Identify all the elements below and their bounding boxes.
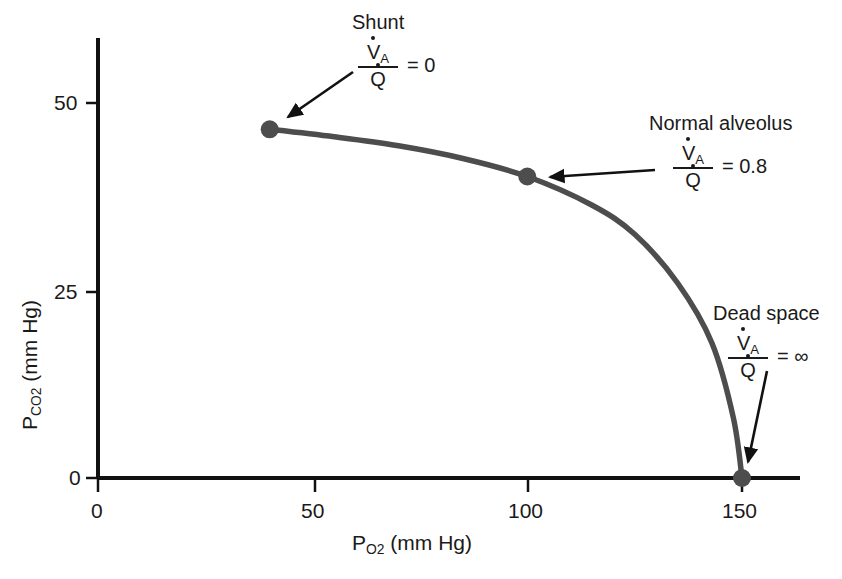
data-point-shunt[interactable] [261, 120, 279, 138]
annotation-dead-space-title: Dead space [713, 303, 820, 323]
shunt-denominator: Q [368, 69, 388, 89]
annotation-normal-alveolus-title: Normal alveolus [649, 113, 792, 133]
x-tick-label-100: 100 [508, 500, 543, 521]
dot-icon [741, 327, 745, 331]
annotation-dead-space-ratio: VA Q = ∞ [728, 333, 809, 381]
x-tick-label-150: 150 [722, 500, 757, 521]
normal-denominator-letter: Q [685, 169, 701, 191]
shunt-fraction: VA Q [358, 42, 398, 90]
x-axis-title-main: P [352, 531, 366, 554]
x-axis-title-unit: (mm Hg) [385, 531, 473, 554]
dot-icon [686, 137, 690, 141]
normal-alveolus-arrow-icon [550, 170, 655, 177]
data-point-normal-alveolus[interactable] [518, 168, 536, 186]
deadspace-numerator-letter: V [737, 332, 750, 354]
deadspace-numerator: VA [735, 333, 761, 356]
normal-denominator: Q [683, 170, 703, 190]
x-tick-label-0: 0 [91, 500, 103, 521]
deadspace-denominator-letter: Q [740, 359, 756, 381]
x-tick-label-50: 50 [301, 500, 324, 521]
y-axis-title-sub2: 2 [28, 387, 44, 395]
shunt-arrow-icon [288, 72, 353, 117]
shunt-numerator: VA [365, 42, 391, 65]
deadspace-denominator: Q [738, 360, 758, 380]
normal-equals: = 0.8 [720, 155, 767, 178]
shunt-numerator-letter: V [367, 41, 380, 63]
y-axis-title-unit: (mm Hg) [18, 300, 41, 388]
x-axis-title-sub: O [366, 541, 377, 557]
y-tick-label-0: 0 [69, 467, 81, 488]
shunt-denominator-letter: Q [370, 68, 386, 90]
x-axis-title: PO2 (mm Hg) [352, 532, 472, 557]
annotation-normal-alveolus-ratio: VA Q = 0.8 [673, 143, 767, 191]
normal-numerator: VA [680, 143, 706, 166]
y-tick-label-50: 50 [54, 92, 77, 113]
shunt-equals: = 0 [405, 54, 435, 77]
chart-figure: 50 25 0 0 50 100 150 PCO2 (mm Hg) PO2 (m… [0, 0, 842, 579]
annotation-shunt-ratio: VA Q = 0 [358, 42, 435, 90]
dead-space-arrow-icon [748, 371, 767, 462]
y-axis-title: PCO2 (mm Hg) [18, 300, 44, 430]
deadspace-numerator-sub: A [750, 342, 759, 357]
y-axis-title-main: P [18, 416, 41, 430]
shunt-numerator-sub: A [380, 51, 389, 66]
y-tick-label-25: 25 [54, 281, 77, 302]
annotation-shunt-title: Shunt [352, 12, 404, 32]
deadspace-equals: = ∞ [775, 345, 809, 368]
normal-fraction: VA Q [673, 143, 713, 191]
vq-curve [270, 129, 742, 478]
data-point-dead-space[interactable] [733, 469, 751, 487]
normal-numerator-sub: A [695, 152, 704, 167]
y-axis-title-sub: CO [28, 395, 44, 416]
x-axis-title-sub2: 2 [377, 541, 385, 557]
normal-numerator-letter: V [682, 142, 695, 164]
deadspace-fraction: VA Q [728, 333, 768, 381]
dot-icon [371, 36, 375, 40]
